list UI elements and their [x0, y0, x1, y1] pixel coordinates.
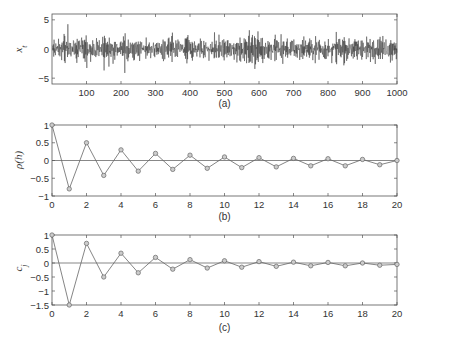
y-tick-label: 1	[44, 120, 49, 131]
data-point-marker	[136, 271, 140, 275]
data-point-marker	[102, 275, 106, 279]
x-tick-label: 10	[219, 199, 230, 210]
data-point-marker	[240, 265, 244, 269]
y-tick-label: −1	[38, 191, 49, 202]
x-tick-label: 800	[320, 87, 336, 98]
y-axis-label: cj	[12, 264, 29, 272]
data-point-marker	[222, 259, 226, 263]
panel-label: (b)	[218, 211, 230, 222]
data-point-marker	[326, 260, 330, 264]
x-tick-label: 16	[323, 308, 334, 319]
x-tick-label: 600	[251, 87, 267, 98]
x-tick-label: 4	[118, 308, 123, 319]
data-point-marker	[171, 167, 175, 171]
y-tick-label: −0.5	[30, 272, 49, 283]
x-tick-label: 6	[153, 308, 158, 319]
data-point-marker	[274, 165, 278, 169]
data-point-marker	[343, 264, 347, 268]
x-tick-label: 14	[288, 199, 299, 210]
x-tick-label: 300	[148, 87, 164, 98]
data-point-marker	[119, 251, 123, 255]
x-tick-label: 1000	[386, 87, 407, 98]
y-tick-label: 0.5	[36, 137, 49, 148]
series-line	[52, 235, 397, 305]
data-point-marker	[222, 155, 226, 159]
x-tick-label: 14	[288, 308, 299, 319]
data-point-marker	[360, 261, 364, 265]
y-tick-label: −1.5	[30, 300, 49, 311]
y-tick-label: −1	[38, 286, 49, 297]
y-axis-label: xt	[12, 45, 29, 54]
data-point-marker	[188, 257, 192, 261]
data-point-marker	[188, 153, 192, 157]
y-tick-label: 0	[44, 258, 49, 269]
time-series-line	[52, 24, 397, 73]
x-tick-label: 12	[254, 199, 265, 210]
data-point-marker	[84, 241, 88, 245]
data-point-marker	[291, 156, 295, 160]
x-tick-label: 4	[118, 199, 123, 210]
data-point-marker	[84, 141, 88, 145]
data-point-marker	[67, 303, 71, 307]
data-point-marker	[102, 173, 106, 177]
panel-a-time-series: 1002003004005006007008009001000−505xt(a)	[12, 14, 408, 109]
x-tick-label: 0	[49, 308, 54, 319]
data-point-marker	[50, 233, 54, 237]
plot-frame	[52, 235, 397, 305]
y-tick-label: 5	[44, 14, 49, 25]
data-point-marker	[119, 148, 123, 152]
data-point-marker	[205, 266, 209, 270]
x-tick-label: 8	[187, 308, 192, 319]
data-point-marker	[395, 158, 399, 162]
y-tick-label: 0	[44, 155, 49, 166]
x-tick-label: 500	[217, 87, 233, 98]
data-point-marker	[257, 155, 261, 159]
x-tick-label: 6	[153, 199, 158, 210]
x-tick-label: 20	[392, 308, 403, 319]
x-tick-label: 900	[355, 87, 371, 98]
data-point-marker	[205, 166, 209, 170]
x-tick-label: 2	[84, 308, 89, 319]
figure: 1002003004005006007008009001000−505xt(a)…	[0, 0, 449, 348]
data-point-marker	[395, 262, 399, 266]
data-point-marker	[136, 169, 140, 173]
data-point-marker	[153, 151, 157, 155]
x-tick-label: 8	[187, 199, 192, 210]
y-tick-label: 0	[44, 44, 49, 55]
x-tick-label: 2	[84, 199, 89, 210]
data-point-marker	[240, 165, 244, 169]
data-point-marker	[326, 157, 330, 161]
x-tick-label: 20	[392, 199, 403, 210]
data-point-marker	[378, 163, 382, 167]
y-tick-label: 1	[44, 230, 49, 241]
data-point-marker	[274, 264, 278, 268]
data-point-marker	[378, 263, 382, 267]
x-tick-label: 16	[323, 199, 334, 210]
y-tick-label: −0.5	[30, 173, 49, 184]
data-point-marker	[171, 267, 175, 271]
panel-label: (c)	[219, 322, 231, 333]
x-tick-label: 18	[357, 308, 368, 319]
panel-c-coefficients: 02468101214161820−1.5−1−0.500.51cj(c)	[12, 230, 402, 334]
y-tick-label: −5	[38, 73, 49, 84]
y-axis-label: ρ(h)	[12, 151, 25, 170]
x-tick-label: 100	[79, 87, 95, 98]
data-point-marker	[360, 157, 364, 161]
data-point-marker	[309, 164, 313, 168]
x-tick-label: 400	[182, 87, 198, 98]
data-point-marker	[153, 255, 157, 259]
panel-label: (a)	[218, 98, 230, 109]
data-point-marker	[343, 164, 347, 168]
x-tick-label: 0	[49, 199, 54, 210]
data-point-marker	[257, 259, 261, 263]
data-point-marker	[291, 260, 295, 264]
x-tick-label: 12	[254, 308, 265, 319]
y-tick-label: 0.5	[36, 244, 49, 255]
x-tick-label: 200	[113, 87, 129, 98]
x-tick-label: 18	[357, 199, 368, 210]
data-point-marker	[67, 187, 71, 191]
x-tick-label: 700	[286, 87, 302, 98]
x-tick-label: 10	[219, 308, 230, 319]
panel-b-autocorrelation: 02468101214161820−1−0.500.51ρ(h)(b)	[12, 120, 402, 223]
data-point-marker	[309, 264, 313, 268]
